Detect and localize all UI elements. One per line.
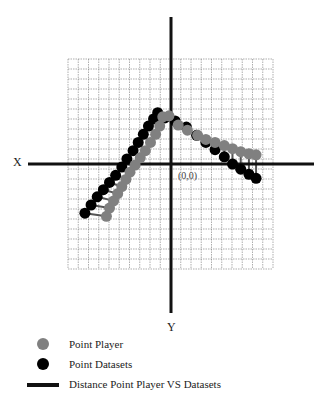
y-axis-label: Y <box>167 320 176 335</box>
origin-label: (0,0) <box>178 170 197 181</box>
legend-label: Point Player <box>69 338 123 350</box>
coordinate-plane <box>0 0 331 402</box>
legend-label: Distance Point Player VS Datasets <box>69 378 221 390</box>
gray-circle-icon <box>37 338 49 350</box>
legend-label: Point Datasets <box>69 358 132 370</box>
x-axis-label: X <box>13 155 22 170</box>
black-circle-icon <box>37 358 49 370</box>
line-icon <box>27 383 59 387</box>
